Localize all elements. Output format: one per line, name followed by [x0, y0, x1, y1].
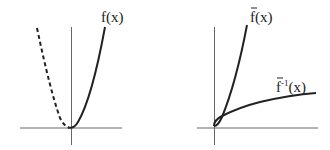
diagram-canvas: f(x) f(x) f-1(x)	[0, 0, 330, 150]
f-curve-dashed	[37, 28, 69, 128]
f-curve-solid	[68, 27, 105, 128]
fbar-label: f(x)	[250, 9, 273, 26]
fbar-inverse-label: f-1(x)	[276, 78, 306, 96]
fbar-curve	[214, 25, 247, 126]
left-plot: f(x)	[20, 9, 124, 145]
f-label: f(x)	[101, 9, 124, 26]
right-plot: f(x) f-1(x)	[197, 8, 318, 145]
